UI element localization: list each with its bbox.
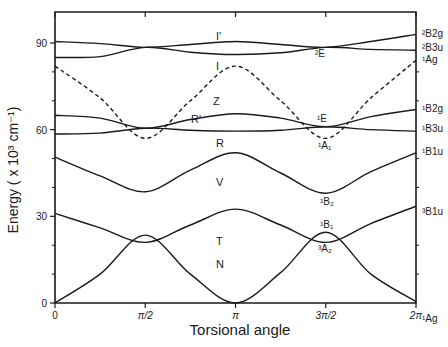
y-axis-label: Energy ( x 10³ cm⁻¹) bbox=[5, 107, 21, 234]
right-state-label: ²B2g bbox=[422, 28, 443, 39]
right-state-label: ²B3u bbox=[422, 42, 443, 53]
right-state-label: ¹B3u bbox=[422, 123, 443, 134]
right-state-label: ¹B2g bbox=[422, 103, 443, 114]
x-tick-label: 0 bbox=[52, 310, 58, 321]
curves bbox=[55, 34, 416, 303]
right-state-label: ¹B1u bbox=[422, 146, 443, 157]
curve-label: I' bbox=[216, 30, 221, 42]
curve-label: R bbox=[216, 137, 224, 149]
curve-i bbox=[55, 47, 416, 57]
y-tick-label: 0 bbox=[41, 298, 47, 309]
x-tick-label: π/2 bbox=[138, 310, 153, 321]
curve-r bbox=[55, 127, 416, 134]
curve-label: N bbox=[216, 258, 224, 270]
right-state-label: ³B1u bbox=[422, 206, 443, 217]
symmetry-label: ²E bbox=[315, 48, 325, 59]
symmetry-label: ³A₂ bbox=[318, 243, 332, 254]
x-tick-label: π bbox=[232, 310, 239, 321]
curve-z bbox=[55, 60, 416, 138]
y-tick-label: 30 bbox=[36, 211, 48, 222]
annotations: I'IZR'RVTN²E¹E¹A₁¹B₂¹B₁³A₂²B2g²B3u¹Ag¹B2… bbox=[191, 28, 443, 324]
curve-label: T bbox=[216, 235, 223, 247]
curve-t bbox=[55, 206, 416, 242]
energy-torsion-chart: 03060900π/2π3π/22π I'IZR'RVTN²E¹E¹A₁¹B₂¹… bbox=[0, 0, 448, 347]
curve-n bbox=[55, 232, 416, 303]
symmetry-label: ¹A₁ bbox=[318, 140, 332, 151]
x-axis-label: Torsional angle bbox=[190, 321, 291, 338]
curve-i-prime bbox=[55, 34, 416, 47]
symmetry-label: ¹B₂ bbox=[320, 196, 334, 207]
right-state-label: ¹Ag bbox=[422, 54, 438, 65]
curve-label: R' bbox=[191, 113, 201, 125]
curve-label: I bbox=[216, 60, 219, 72]
right-state-label: ¹Ag bbox=[422, 313, 438, 324]
axis-ticks: 03060900π/2π3π/22π bbox=[36, 12, 423, 321]
y-tick-label: 90 bbox=[36, 38, 48, 49]
curve-v bbox=[55, 153, 416, 193]
curve-label: Z bbox=[213, 95, 220, 107]
x-tick-label: 3π/2 bbox=[315, 310, 336, 321]
symmetry-label: ¹B₁ bbox=[320, 219, 334, 230]
x-tick-label: 2π bbox=[409, 310, 423, 321]
y-tick-label: 60 bbox=[36, 125, 48, 136]
curve-r-prime bbox=[55, 109, 416, 128]
symmetry-label: ¹E bbox=[317, 113, 327, 124]
curve-label: V bbox=[216, 176, 224, 188]
